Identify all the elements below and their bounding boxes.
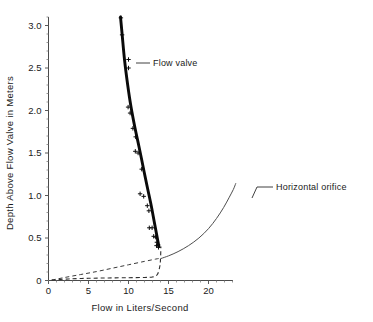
flow-valve-curve: [121, 17, 159, 247]
data-point-marker: [142, 194, 146, 198]
y-tick-label: 0.5: [28, 232, 41, 243]
x-axis-tick-labels: 05101520: [46, 285, 214, 296]
x-tick-label: 15: [163, 285, 174, 296]
horizontal-orifice-leader-line: [252, 187, 273, 198]
data-point-marker: [138, 192, 142, 196]
plot-canvas: 00.51.01.52.02.53.0 05101520 Flow valve …: [0, 0, 373, 322]
annotation-flow-valve: Flow valve: [153, 58, 198, 68]
annotation-horizontal-orifice: Horizontal orifice: [276, 182, 347, 192]
data-point-marker: [147, 209, 151, 213]
data-point-marker: [126, 57, 130, 61]
x-tick-label: 0: [46, 285, 51, 296]
chart-figure: 00.51.01.52.02.53.0 05101520 Flow valve …: [0, 0, 373, 322]
y-tick-label: 0: [36, 275, 41, 286]
x-axis-title: Flow in Liters/Second: [91, 302, 188, 313]
y-axis-tick-labels: 00.51.01.52.02.53.0: [28, 20, 41, 286]
y-tick-label: 2.5: [28, 62, 41, 73]
series-group: [52, 16, 236, 280]
x-tick-label: 20: [203, 285, 214, 296]
y-axis-title: Depth Above Flow Valve in Meters: [4, 76, 15, 230]
y-tick-label: 1.0: [28, 190, 41, 201]
x-tick-label: 10: [123, 285, 134, 296]
annotation-leaders: [136, 63, 273, 198]
x-tick-label: 5: [86, 285, 91, 296]
y-tick-label: 2.0: [28, 105, 41, 116]
y-tick-label: 1.5: [28, 147, 41, 158]
y-axis-ticks: [45, 17, 49, 281]
upper-dashed-curve: [52, 258, 160, 280]
lower-dashed-curve: [52, 247, 161, 281]
x-axis-ticks: [49, 281, 233, 285]
y-tick-label: 3.0: [28, 20, 41, 31]
horizontal-orifice-curve: [161, 184, 235, 259]
data-point-marker: [145, 204, 149, 208]
